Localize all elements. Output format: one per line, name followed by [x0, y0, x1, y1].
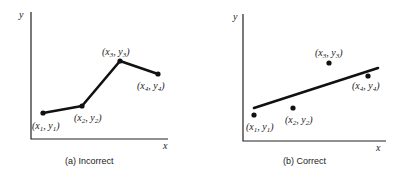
data-point	[251, 112, 256, 117]
point-label: (x1, y1)	[32, 120, 60, 133]
data-point	[365, 73, 370, 78]
data-point	[117, 58, 122, 63]
point-label: (x4, y4)	[352, 80, 380, 93]
panel-incorrect: y x (x1, y1) (x2, y2) (x3, y3) (x4, y4) …	[18, 9, 168, 166]
point-label: (x4, y4)	[137, 80, 165, 93]
data-point	[79, 103, 84, 108]
data-point	[290, 105, 295, 110]
figure: y x (x1, y1) (x2, y2) (x3, y3) (x4, y4) …	[0, 0, 403, 174]
data-point	[40, 110, 45, 115]
x-axis-label: x	[162, 140, 168, 151]
point-label: (x1, y1)	[246, 121, 274, 134]
point-label: (x3, y3)	[102, 46, 130, 59]
point-label: (x3, y3)	[315, 47, 343, 60]
caption: (a) Incorrect	[65, 156, 114, 166]
data-point	[155, 71, 160, 76]
x-axis-label: x	[375, 142, 381, 153]
data-point	[326, 60, 331, 65]
y-axis-label: y	[232, 11, 238, 22]
point-label: (x2, y2)	[285, 114, 313, 127]
point-label: (x2, y2)	[74, 112, 102, 125]
panel-correct: y x (x1, y1) (x2, y2) (x3, y3) (x4, y4) …	[232, 11, 386, 166]
y-axis-label: y	[18, 9, 24, 20]
caption: (b) Correct	[283, 156, 327, 166]
